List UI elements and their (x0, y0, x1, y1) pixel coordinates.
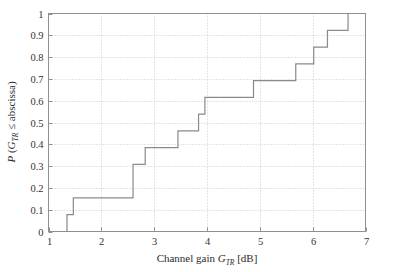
y-tick-label: 0.9 (30, 30, 43, 41)
y-tick-label: 0.8 (30, 52, 43, 63)
x-tick-label: 7 (364, 236, 369, 247)
cdf-step-chart: 1234567 00.10.20.30.40.50.60.70.80.91 Ch… (0, 0, 396, 272)
y-tick-label: 0.7 (30, 74, 43, 85)
x-tick-label: 3 (152, 236, 157, 247)
y-tick-label: 0.1 (30, 205, 43, 216)
x-tick-label: 5 (258, 236, 263, 247)
x-tick-label: 2 (99, 236, 104, 247)
y-tick-label: 0.6 (30, 96, 43, 107)
x-tick-label: 4 (205, 236, 211, 247)
y-tick-label: 0.5 (30, 118, 43, 129)
y-tick-label: 0.4 (30, 139, 44, 150)
x-tick-label: 1 (47, 236, 52, 247)
chart-figure: 1234567 00.10.20.30.40.50.60.70.80.91 Ch… (0, 0, 396, 272)
x-tick-label: 6 (311, 236, 316, 247)
y-tick-label: 0.3 (30, 161, 43, 172)
y-tick-label: 0 (38, 227, 43, 238)
y-tick-label: 1 (38, 9, 43, 20)
y-tick-label: 0.2 (30, 183, 43, 194)
